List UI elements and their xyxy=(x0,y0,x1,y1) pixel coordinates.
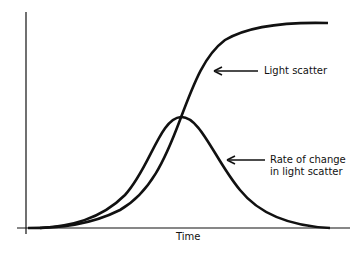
x-axis-label: Time xyxy=(176,231,200,243)
arrow-rate-of-change xyxy=(227,156,265,164)
label-light-scatter: Light scatter xyxy=(264,65,327,77)
arrow-light-scatter xyxy=(214,67,258,75)
light-scatter-curve xyxy=(28,23,328,228)
label-rate-line1: Rate of change xyxy=(270,154,346,166)
chart-canvas xyxy=(0,0,363,254)
label-rate-line2: in light scatter xyxy=(270,166,343,178)
